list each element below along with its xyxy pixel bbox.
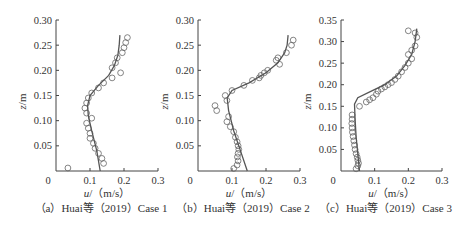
figure: 0.050.100.150.200.250.3000.10.20.3u/（m/s… [0, 0, 476, 228]
x-tick-label: 0 [187, 175, 192, 186]
y-tick-label: 0.30 [319, 36, 337, 47]
y-tick-label: 0.25 [319, 58, 337, 69]
x-tick-label: 0.3 [293, 175, 306, 186]
chart-panel-c: 0.050.100.150.200.250.300.3500.10.20.3u/… [301, 15, 452, 215]
chart-panel-b: 0.050.100.150.200.250.3000.10.20.3u/（m/s… [158, 15, 310, 215]
x-tick-label: 0.3 [435, 175, 448, 186]
y-tick-label: 0.35 [319, 15, 337, 26]
x-tick-label: 0.2 [117, 175, 130, 186]
x-tick-label: 0.2 [259, 175, 272, 186]
x-axis-label: u/（m/s） [368, 187, 414, 199]
y-tick-label: 0.15 [176, 90, 194, 101]
y-tick-label: 0.10 [319, 122, 337, 133]
y-tick-label: 0.25 [34, 40, 52, 51]
x-axis-label: u/（m/s） [226, 187, 272, 199]
panel-caption: （a）Huai等（2019）Case 1 [35, 201, 168, 214]
chart-panel-a: 0.050.100.150.200.250.3000.10.20.3u/（m/s… [16, 15, 167, 215]
x-tick-label: 0 [45, 175, 50, 186]
x-tick-label: 0.1 [83, 175, 96, 186]
panel-caption: （c）Huai等（2019）Case 3 [319, 201, 452, 214]
y-tick-label: 0.10 [176, 115, 194, 126]
measured-point [349, 112, 355, 118]
x-tick-label: 0.1 [225, 175, 238, 186]
x-tick-label: 0.3 [151, 175, 164, 186]
measured-point [109, 75, 115, 81]
x-tick-label: 0.1 [368, 175, 381, 186]
panel-caption: （b）Huai等（2019）Case 2 [176, 201, 310, 214]
y-tick-label: 0.05 [34, 140, 52, 151]
measured-point [290, 37, 296, 43]
measured-point [212, 103, 218, 109]
measured-point [357, 103, 363, 109]
y-tick-label: 0.30 [176, 15, 194, 26]
x-tick-label: 0 [330, 175, 335, 186]
measured-point [235, 158, 241, 164]
y-tick-label: 0.15 [319, 101, 337, 112]
x-tick-label: 0.2 [402, 175, 415, 186]
y-tick-label: 0.30 [34, 15, 52, 26]
y-tick-label: 0.05 [176, 140, 194, 151]
measured-point [65, 165, 71, 171]
y-tick-label: 0.10 [34, 115, 52, 126]
y-tick-label: 0.15 [34, 90, 52, 101]
measured-point [84, 120, 90, 126]
chart-canvas: 0.050.100.150.200.250.3000.10.20.3u/（m/s… [0, 0, 476, 228]
y-axis-label: z/m [301, 93, 313, 110]
y-tick-label: 0.05 [319, 144, 337, 155]
y-axis-label: z/m [158, 93, 170, 110]
measured-point [125, 35, 131, 41]
measured-point [405, 28, 411, 34]
y-tick-label: 0.20 [319, 79, 337, 90]
y-axis-label: z/m [16, 93, 28, 110]
measured-point [118, 70, 124, 76]
measured-point [234, 162, 240, 168]
y-tick-label: 0.20 [34, 65, 52, 76]
x-axis-label: u/（m/s） [84, 187, 130, 199]
y-tick-label: 0.20 [176, 65, 194, 76]
y-tick-label: 0.25 [176, 40, 194, 51]
